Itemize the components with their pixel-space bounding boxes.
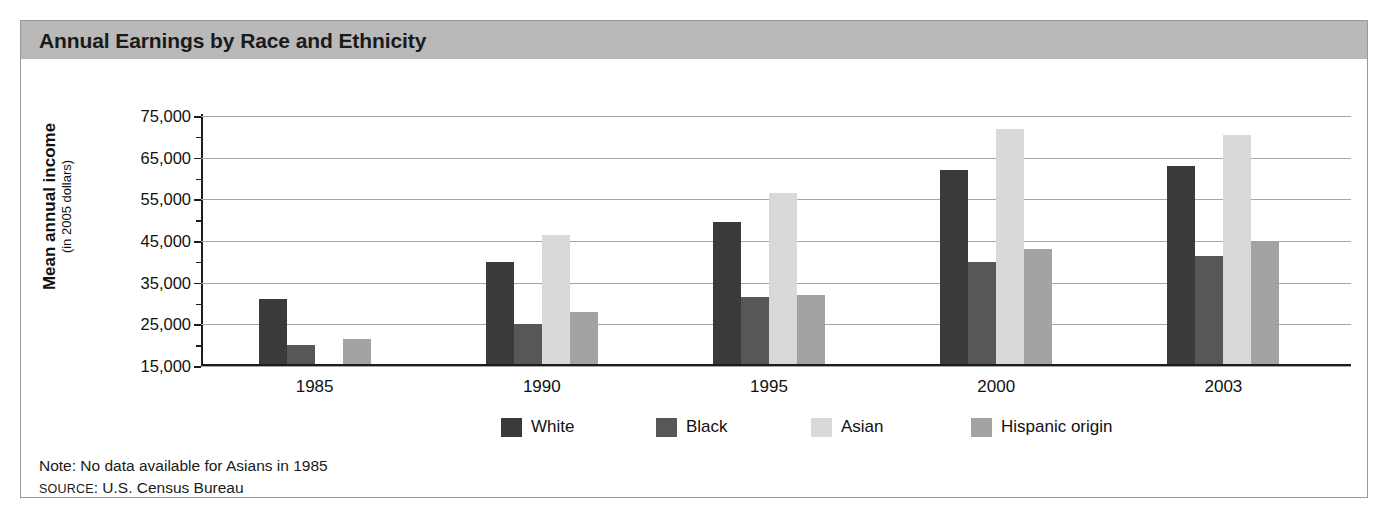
y-axis-minor-tick (196, 137, 201, 139)
gridline (201, 366, 1351, 367)
y-axis-major-tick (194, 283, 201, 285)
chart-source: SOURCE: U.S. Census Bureau (39, 477, 739, 500)
y-axis-major-tick (194, 199, 201, 201)
x-axis-tick-label: 2003 (1204, 377, 1242, 397)
plot-wrapper: Mean annual income (in 2005 dollars) 75,… (21, 59, 1367, 499)
legend-label: Hispanic origin (1001, 417, 1113, 437)
legend-swatch-icon (656, 418, 677, 437)
bar (486, 262, 514, 364)
legend-item[interactable]: Hispanic origin (971, 417, 1113, 437)
legend-item[interactable]: Asian (811, 417, 884, 437)
y-axis-major-tick (194, 158, 201, 160)
legend-label: Black (686, 417, 728, 437)
plot-area (201, 59, 1351, 366)
bar (769, 193, 797, 364)
legend-item[interactable]: Black (656, 417, 728, 437)
legend-swatch-icon (501, 418, 522, 437)
y-axis-tick-label: 25,000 (99, 316, 191, 332)
y-axis-major-tick (194, 241, 201, 243)
y-axis-tick-labels: 75,00065,00055,00045,00035,00025,00015,0… (99, 59, 191, 379)
chart-title-bar: Annual Earnings by Race and Ethnicity (21, 21, 1367, 59)
bar (343, 339, 371, 364)
legend-label: White (531, 417, 574, 437)
y-axis-tick-label: 75,000 (99, 108, 191, 124)
y-axis-title-secondary: (in 2005 dollars) (59, 107, 75, 307)
x-axis-tick-label: 1985 (296, 377, 334, 397)
bar (968, 262, 996, 364)
bar (940, 170, 968, 364)
legend-swatch-icon (971, 418, 992, 437)
bar (1223, 135, 1251, 364)
source-label: SOURCE (39, 482, 94, 496)
y-axis-title: Mean annual income (in 2005 dollars) (40, 107, 75, 307)
bar (287, 345, 315, 364)
chart-legend: WhiteBlackAsianHispanic origin (201, 417, 1351, 443)
y-axis-minor-tick (196, 345, 201, 347)
bar (713, 222, 741, 364)
y-axis-tick-label: 65,000 (99, 150, 191, 166)
page-title: Annual Earnings by Race and Ethnicity (39, 29, 426, 53)
gridline (201, 116, 1351, 117)
x-axis-tick-label: 1990 (523, 377, 561, 397)
bar (1195, 256, 1223, 364)
y-axis-major-tick (194, 324, 201, 326)
bar (1024, 249, 1052, 364)
bar (1167, 166, 1195, 364)
source-value: : U.S. Census Bureau (94, 479, 244, 496)
y-axis-minor-tick (196, 220, 201, 222)
bar (797, 295, 825, 364)
y-axis-tick-label: 15,000 (99, 358, 191, 374)
gridline (201, 158, 1351, 159)
bar (542, 235, 570, 364)
bar (514, 324, 542, 364)
x-axis-tick-label: 1995 (750, 377, 788, 397)
legend-item[interactable]: White (501, 417, 574, 437)
y-axis-major-tick (194, 116, 201, 118)
chart-figure: Annual Earnings by Race and Ethnicity Me… (20, 20, 1368, 498)
x-axis-tick-label: 2000 (977, 377, 1015, 397)
bar (996, 129, 1024, 364)
x-axis-tick-labels: 19851990199520002003 (201, 377, 1351, 405)
y-axis-minor-tick (196, 179, 201, 181)
y-axis-title-primary: Mean annual income (40, 107, 59, 307)
y-axis-minor-tick (196, 262, 201, 264)
legend-label: Asian (841, 417, 884, 437)
chart-note: Note: No data available for Asians in 19… (39, 455, 739, 477)
y-axis-major-tick (194, 366, 201, 368)
bar (570, 312, 598, 364)
bar (259, 299, 287, 364)
y-axis-minor-tick (196, 304, 201, 306)
bar (1251, 241, 1279, 364)
bar (741, 297, 769, 364)
y-axis-tick-label: 35,000 (99, 275, 191, 291)
y-axis-tick-label: 55,000 (99, 191, 191, 207)
chart-footer: Note: No data available for Asians in 19… (39, 455, 739, 500)
legend-swatch-icon (811, 418, 832, 437)
y-axis-tick-label: 45,000 (99, 233, 191, 249)
